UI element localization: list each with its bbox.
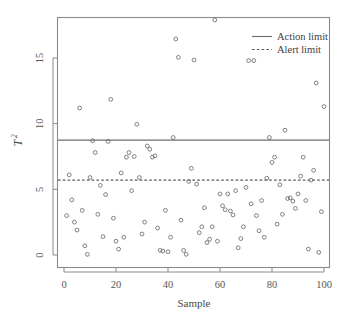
data-point: [86, 252, 90, 256]
data-point: [67, 173, 71, 177]
data-point: [255, 214, 259, 218]
data-point: [182, 249, 186, 253]
data-point: [260, 199, 264, 203]
data-point: [286, 197, 290, 201]
data-point: [138, 176, 142, 180]
data-point: [265, 176, 269, 180]
plot-frame: [58, 18, 330, 268]
data-point: [249, 202, 253, 206]
data-point: [112, 216, 116, 220]
data-point: [184, 252, 188, 256]
data-point: [275, 222, 279, 226]
data-point: [143, 220, 147, 224]
data-point: [288, 196, 292, 200]
chart-canvas: 051015 020406080100 T 2 Sample Action li…: [0, 0, 350, 326]
legend-label-alert-limit: Alert limit: [277, 44, 321, 55]
data-point: [114, 239, 118, 243]
data-point: [322, 105, 326, 109]
data-point: [283, 128, 287, 132]
data-point: [301, 155, 305, 159]
data-point: [164, 208, 168, 212]
data-point: [109, 97, 113, 101]
y-tick-label: 15: [34, 53, 45, 64]
data-point: [314, 81, 318, 85]
data-point: [195, 182, 199, 186]
data-point: [75, 228, 79, 232]
data-point: [291, 199, 295, 203]
data-point: [307, 247, 311, 251]
data-point: [145, 144, 149, 148]
data-point: [197, 231, 201, 235]
y-axis-title-base: T: [11, 138, 25, 146]
data-point: [273, 155, 277, 159]
data-point: [104, 193, 108, 197]
data-point: [320, 210, 324, 214]
y-tick-label: 10: [34, 118, 45, 128]
x-axis-title: Sample: [178, 297, 211, 309]
data-point: [229, 209, 233, 213]
data-point: [244, 185, 248, 189]
data-point: [140, 232, 144, 236]
data-point: [65, 214, 69, 218]
x-tick-label: 60: [215, 279, 226, 290]
data-point: [132, 155, 136, 159]
chart-legend: Action limit Alert limit: [252, 31, 328, 55]
data-point: [294, 206, 298, 210]
data-point: [262, 235, 266, 239]
data-point: [296, 192, 300, 196]
x-tick-label: 100: [316, 279, 332, 290]
data-point: [226, 192, 230, 196]
data-point: [177, 55, 181, 59]
data-point: [210, 225, 214, 229]
data-point: [192, 58, 196, 62]
data-point: [242, 225, 246, 229]
reference-limit-lines: [58, 140, 329, 180]
data-point: [299, 174, 303, 178]
data-point: [223, 208, 227, 212]
data-point: [179, 218, 183, 222]
data-point: [91, 139, 95, 143]
data-point: [231, 213, 235, 217]
data-point: [216, 239, 220, 243]
data-point: [239, 237, 243, 241]
data-point: [166, 250, 170, 254]
x-axis-ticks: 020406080100: [61, 267, 332, 290]
data-point: [80, 208, 84, 212]
data-point: [158, 249, 162, 253]
data-point: [125, 155, 129, 159]
data-point: [148, 147, 152, 151]
data-point: [73, 220, 77, 224]
data-point: [203, 206, 207, 210]
data-point: [257, 229, 261, 233]
data-point: [221, 204, 225, 208]
data-point: [127, 151, 131, 155]
data-point: [135, 122, 139, 126]
y-axis-ticks: 051015: [34, 53, 58, 258]
data-point: [252, 59, 256, 63]
data-point: [304, 199, 308, 203]
data-point: [174, 37, 178, 41]
data-point: [234, 189, 238, 193]
data-point: [247, 59, 251, 63]
data-point: [190, 166, 194, 170]
data-point: [83, 244, 87, 248]
y-axis-title: T 2: [10, 134, 25, 146]
x-tick-label: 0: [61, 279, 66, 290]
data-point: [156, 226, 160, 230]
data-point: [281, 212, 285, 216]
legend-label-action-limit: Action limit: [277, 31, 328, 42]
data-point: [270, 161, 274, 165]
data-point: [218, 192, 222, 196]
data-point: [99, 183, 103, 187]
x-tick-label: 40: [163, 279, 174, 290]
y-tick-label: 0: [34, 252, 45, 257]
data-point: [88, 176, 92, 180]
data-point: [78, 106, 82, 110]
data-point: [200, 225, 204, 229]
control-chart: 051015 020406080100 T 2 Sample Action li…: [0, 0, 350, 326]
data-point: [236, 246, 240, 250]
data-point: [130, 189, 134, 193]
data-point: [119, 171, 123, 175]
data-point: [101, 235, 105, 239]
y-axis-title-exponent: 2: [10, 134, 19, 138]
